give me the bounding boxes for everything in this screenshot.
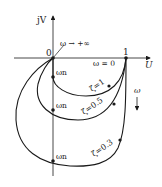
zeta-0.3-label: ζ=0.3 [90,138,115,159]
nyquist-diagram: jV U 0 1 ω → +∞ ω = 0 ω ωn ωn ωn ζ=1 ζ=0… [0,0,162,187]
curve-zeta-1 [53,58,126,96]
omega-infinity-label: ω → +∞ [60,39,90,48]
curve-zeta-0.3 [16,58,126,166]
origin-label: 0 [46,48,52,58]
unit-label: 1 [123,47,129,57]
omega-n-point-1 [51,75,55,79]
omega-n-label-1: ωn [56,68,67,77]
omega-n-label-3: ωn [56,152,67,161]
horizontal-axis-label: U [145,60,153,70]
omega-n-point-2 [51,108,55,112]
origin-point [51,56,55,60]
omega-zero-label: ω = 0 [93,59,115,68]
direction-marker-zeta-0.3 [118,138,121,141]
vertical-axis-label: jV [36,15,47,25]
direction-marker-zeta-1 [107,84,110,87]
zeta-1-label: ζ=1 [88,77,106,94]
omega-direction-label: ω [134,86,141,95]
omega-n-label-2: ωn [56,101,67,110]
omega-n-point-3 [51,159,55,163]
direction-marker-zeta-0.5 [112,102,115,105]
